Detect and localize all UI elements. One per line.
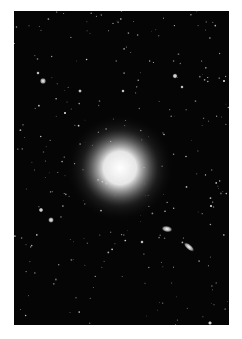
star-field <box>14 11 229 325</box>
companion-galaxies <box>160 225 196 254</box>
main-galaxy <box>65 113 175 223</box>
galaxy-photo: elliptical galaxy with surrounding star … <box>14 11 229 325</box>
